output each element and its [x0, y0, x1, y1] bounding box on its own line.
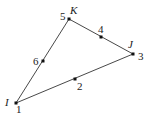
- triangle-element-diagram: I 1 2 J 3 4 5 K 6: [0, 0, 152, 113]
- node-4-dot: [100, 36, 103, 39]
- node-label-2: 2: [77, 80, 83, 92]
- vertex-label-j: J: [128, 38, 134, 50]
- node-label-5: 5: [60, 10, 66, 22]
- vertex-label-i: I: [4, 96, 10, 108]
- node-label-3: 3: [138, 50, 144, 62]
- node-label-4: 4: [98, 23, 104, 35]
- node-3-dot: [132, 53, 135, 56]
- node-5-dot: [68, 18, 71, 21]
- node-6-dot: [42, 60, 45, 63]
- vertex-label-k: K: [69, 4, 78, 16]
- node-label-1: 1: [16, 103, 22, 113]
- node-label-6: 6: [33, 55, 39, 67]
